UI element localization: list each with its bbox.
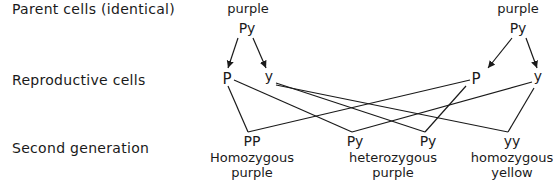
offspring-Py-1: Py bbox=[347, 133, 364, 149]
gamete-right-y: y bbox=[534, 68, 542, 84]
phenotype-line1: Homozygous bbox=[210, 150, 294, 165]
phenotype-homozygous-yellow: homozygous yellow bbox=[471, 150, 553, 180]
parent-right-phenotype: purple bbox=[497, 1, 539, 16]
gamete-left-y: y bbox=[265, 68, 273, 84]
phenotype-line2: purple bbox=[349, 165, 437, 180]
parent-left-genotype: Py bbox=[239, 20, 256, 36]
offspring-PP: PP bbox=[244, 133, 261, 149]
parent-left-phenotype: purple bbox=[227, 1, 269, 16]
phenotype-line2: yellow bbox=[471, 165, 553, 180]
gamete-right-P: P bbox=[471, 70, 480, 88]
offspring-Py-2: Py bbox=[420, 133, 437, 149]
phenotype-heterozygous-purple: heterozygous purple bbox=[349, 150, 437, 180]
gamete-left-P: P bbox=[222, 70, 231, 88]
phenotype-line1: homozygous bbox=[471, 150, 553, 165]
offspring-yy: yy bbox=[504, 133, 521, 149]
phenotype-line1: heterozygous bbox=[349, 150, 437, 165]
phenotype-line2: purple bbox=[210, 165, 294, 180]
phenotype-homozygous-purple: Homozygous purple bbox=[210, 150, 294, 180]
parent-right-genotype: Py bbox=[510, 20, 527, 36]
